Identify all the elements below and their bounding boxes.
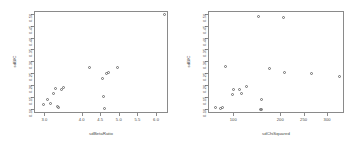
x-tick-mark (233, 113, 234, 116)
x-axis-title-left: sdBetaRatio (89, 131, 113, 136)
x-axis-title-right: sdChiSquared (262, 131, 290, 136)
data-points-right (209, 12, 343, 112)
plot-area-left (34, 11, 168, 113)
data-point (231, 93, 234, 96)
y-tick-label: 0.30 (28, 61, 33, 69)
x-tick-label: 4.0 (79, 117, 85, 122)
x-tick-label: 100 (230, 117, 237, 122)
data-point (245, 85, 248, 88)
panel-right-sdchisquared: 1002002503000.100.150.200.250.300.350.40… (176, 0, 352, 147)
panel-left-sdbetaratio: 3.04.04.55.05.56.00.100.150.200.250.300.… (0, 0, 176, 147)
x-tick-label: 4.5 (97, 117, 103, 122)
x-tick-label: 3.0 (41, 117, 47, 122)
y-tick-label: 0.50 (28, 13, 33, 21)
data-point (338, 75, 341, 78)
data-point (46, 98, 49, 101)
data-point (224, 65, 227, 68)
y-tick-label: 0.20 (28, 85, 33, 93)
y-axis-title-left: sdBIC (12, 50, 17, 74)
y-tick-label: 0.50 (202, 13, 207, 21)
data-point (257, 15, 260, 18)
y-tick-label: 0.40 (28, 37, 33, 45)
y-tick-label: 0.30 (202, 61, 207, 69)
y-tick-label: 0.35 (28, 49, 33, 57)
y-tick-label: 0.10 (202, 108, 207, 116)
data-point (42, 103, 45, 106)
y-tick-label: 0.15 (28, 96, 33, 104)
x-tick-label: 6.0 (153, 117, 159, 122)
data-point (116, 66, 119, 69)
data-point (88, 66, 91, 69)
data-point (238, 88, 241, 91)
y-tick-label: 0.40 (202, 37, 207, 45)
data-point (310, 72, 313, 75)
data-point (268, 67, 271, 70)
y-tick-label: 0.15 (202, 96, 207, 104)
data-point (54, 87, 57, 90)
x-tick-label: 5.0 (116, 117, 122, 122)
data-point (60, 88, 63, 91)
y-axis-title-right: sdBIC (186, 50, 191, 74)
y-tick-label: 0.35 (202, 49, 207, 57)
data-point (103, 107, 106, 110)
x-tick-label: 300 (324, 117, 331, 122)
plot-area-right (208, 11, 344, 113)
x-tick-mark (100, 113, 101, 116)
y-tick-label: 0.10 (28, 108, 33, 116)
x-tick-mark (156, 113, 157, 116)
data-point (163, 13, 166, 16)
x-tick-label: 5.5 (134, 117, 140, 122)
x-tick-mark (44, 113, 45, 116)
x-tick-label: 200 (277, 117, 284, 122)
data-point (232, 88, 235, 91)
scatter-plot-figure: 3.04.04.55.05.56.00.100.150.200.250.300.… (0, 0, 352, 147)
y-tick-label: 0.20 (202, 85, 207, 93)
data-point (282, 16, 285, 19)
data-point (101, 77, 104, 80)
y-tick-label: 0.45 (28, 25, 33, 33)
data-point (214, 106, 217, 109)
x-tick-mark (82, 113, 83, 116)
data-point (283, 71, 286, 74)
x-tick-label: 250 (300, 117, 307, 122)
data-point (221, 106, 224, 109)
data-point (57, 106, 60, 109)
data-point (49, 102, 52, 105)
data-point (240, 92, 243, 95)
data-points-left (35, 12, 167, 112)
y-tick-label: 0.25 (202, 73, 207, 81)
x-tick-mark (119, 113, 120, 116)
data-point (260, 98, 263, 101)
data-point (102, 95, 105, 98)
x-tick-mark (280, 113, 281, 116)
data-point (259, 108, 262, 111)
y-tick-label: 0.25 (28, 73, 33, 81)
data-point (105, 72, 108, 75)
x-tick-mark (327, 113, 328, 116)
data-point (52, 92, 55, 95)
y-tick-label: 0.45 (202, 25, 207, 33)
x-tick-mark (304, 113, 305, 116)
x-tick-mark (137, 113, 138, 116)
